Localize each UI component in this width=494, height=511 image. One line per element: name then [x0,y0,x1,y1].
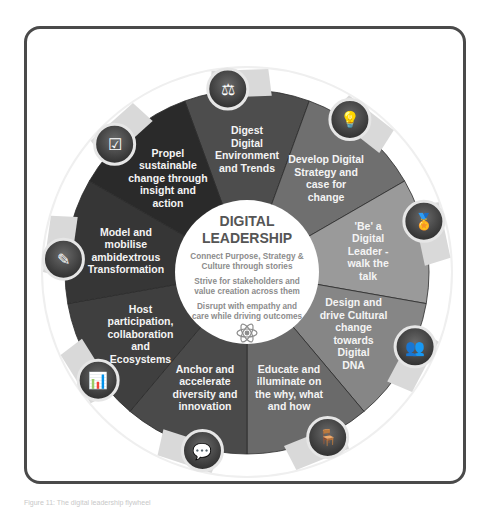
segment-label-line: drive Cultural [320,309,388,321]
segment-label-line: talk [359,270,377,282]
segment-label-line: and how [268,400,311,412]
segment-label-line: Anchor and [176,363,234,375]
segment-label-line: diversity and [173,388,238,400]
segment-label-line: accelerate [179,375,231,387]
segment-label-line: Leader - [348,245,389,257]
segment-label-line: and [131,340,150,352]
leadership-wheel: ⚖💡🏅👥🪑💬📊✎☑ DigestDigitalEnvironmentand Tr… [0,0,494,511]
segment-label-line: change [308,191,345,203]
figure-caption: Figure 11: The digital leadership flywhe… [24,499,151,506]
segment-label-line: Digital [337,346,369,358]
segment-label-line: participation, [108,315,174,327]
segment-label-line: Transformation [88,263,164,275]
document-edit-icon: ✎ [57,251,70,268]
two-heads-icon: 👥 [405,339,425,357]
scales-icon: ⚖ [221,81,235,98]
center-statement-1b: Culture through stories [202,262,293,271]
segment-label-line: Educate and [258,363,320,375]
segment-label-line: Digital [352,232,384,244]
segment-label-line: change through [128,172,207,184]
segment-label-line: and Trends [219,162,275,174]
segment-label-line: action [152,197,183,209]
segment-label-line: towards [333,334,373,346]
segment-label-line: sustainable [139,159,197,171]
segment-label-line: mobilise [105,238,148,250]
people-chat-icon: 💬 [192,442,212,461]
segment-label-line: the why, what [255,388,324,400]
center-title-line1: DIGITAL [220,213,275,229]
segment-label-line: Strategy and [294,166,358,178]
segment-label-line: Design and [325,296,382,308]
medal-icon: 🏅 [414,212,434,231]
clipboard-checklist-icon: ☑ [108,136,122,153]
presentation-icon: 📊 [88,371,108,390]
segment-label-line: Host [129,303,153,315]
center-statement-2b: value creation across them [194,287,300,296]
segment-label-line: Ecosystems [110,353,171,365]
segment-label-line: Digest [231,124,264,136]
segment-label-line: illuminate on [257,375,322,387]
segment-label-line: ambidextrous [91,251,160,263]
segment-label-line: Propel [152,147,185,159]
segment-label-line: Model and [100,226,152,238]
segment-label-line: Environment [215,149,280,161]
segment-label-line: Develop Digital [288,153,364,165]
person-at-desk-icon: 🪑 [318,428,338,447]
segment-label-line: innovation [178,400,231,412]
segment-label-line: 'Be' a [355,220,382,232]
head-lightbulb-icon: 💡 [340,110,360,129]
center-statement-3b: care while driving outcomes [192,312,303,321]
segment-label-line: Digital [231,137,263,149]
center-title-line2: LEADERSHIP [202,230,292,246]
segment-label-line: collaboration [108,328,174,340]
center-statement-1a: Connect Purpose, Strategy & [190,252,303,261]
center-statement-3a: Disrupt with empathy and [197,302,297,311]
segment-label-line: insight and [140,184,196,196]
segment-label-line: case for [306,178,346,190]
segment-label-line: walk the [346,257,389,269]
center-statement-2a: Strive for stakeholders and [194,277,300,286]
segment-label-line: change [335,321,372,333]
segment-label-line: DNA [342,359,365,371]
